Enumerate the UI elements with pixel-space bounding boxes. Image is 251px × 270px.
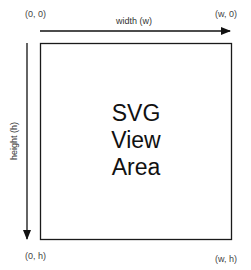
corner-label-top-right: (w, 0) xyxy=(215,9,237,19)
view-area-label-line1: SVG xyxy=(112,100,161,126)
view-area-label-line2: View xyxy=(111,127,161,153)
height-axis-label: height (h) xyxy=(9,122,19,160)
view-area-label-line3: Area xyxy=(112,154,161,180)
corner-label-bottom-left: (0, h) xyxy=(25,251,46,261)
svg-coordinate-diagram: (0, 0) (w, 0) (0, h) (w, h) width (w) he… xyxy=(0,0,251,270)
corner-label-top-left: (0, 0) xyxy=(25,9,46,19)
width-axis-label: width (w) xyxy=(115,16,152,26)
corner-label-bottom-right: (w, h) xyxy=(215,254,237,264)
